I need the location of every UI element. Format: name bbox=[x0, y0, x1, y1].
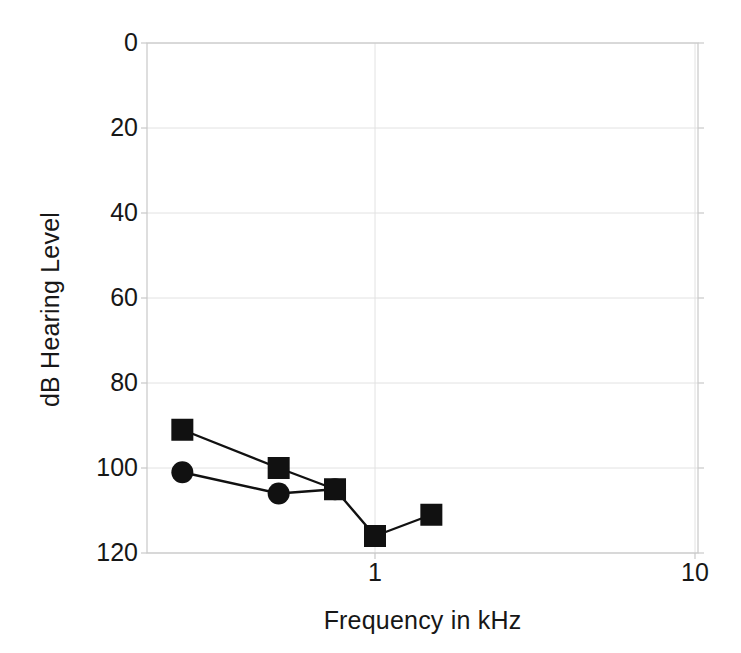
data-point-square bbox=[420, 504, 442, 526]
x-tick-label-1: 1 bbox=[368, 560, 382, 585]
y-tick-label-40: 40 bbox=[76, 200, 138, 225]
series-line bbox=[182, 472, 335, 493]
y-axis-title: dB Hearing Level bbox=[36, 155, 65, 465]
x-tick-label-10: 10 bbox=[681, 560, 709, 585]
data-point-circle bbox=[268, 483, 290, 505]
y-tick-label-60: 60 bbox=[76, 285, 138, 310]
grid-lines bbox=[147, 43, 698, 553]
audiogram-figure: dB Hearing Level Frequency in kHz 0 20 4… bbox=[0, 0, 741, 653]
series-line bbox=[182, 430, 431, 536]
data-point-square bbox=[268, 457, 290, 479]
data-series bbox=[171, 419, 442, 547]
data-point-square bbox=[171, 419, 193, 441]
y-axis-tick-labels: 0 20 40 60 80 100 120 bbox=[68, 0, 138, 653]
y-tick-label-100: 100 bbox=[76, 455, 138, 480]
y-tick-label-120: 120 bbox=[76, 540, 138, 565]
x-axis-title: Frequency in kHz bbox=[147, 606, 698, 635]
series-square-series bbox=[171, 419, 442, 547]
y-tick-label-20: 20 bbox=[76, 115, 138, 140]
data-point-square bbox=[364, 525, 386, 547]
y-tick-label-80: 80 bbox=[76, 370, 138, 395]
y-tick-label-0: 0 bbox=[76, 30, 138, 55]
data-point-circle bbox=[324, 478, 346, 500]
data-point-circle bbox=[171, 461, 193, 483]
